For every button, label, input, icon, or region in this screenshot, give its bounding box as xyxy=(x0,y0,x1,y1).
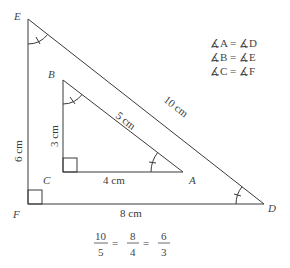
angle-equalities: ∡A = ∡D ∡B = ∡E ∡C = ∡F xyxy=(210,37,257,77)
equals-sign-1: = xyxy=(112,237,118,249)
angle-arc-e xyxy=(28,34,48,44)
vertex-label-f: F xyxy=(12,208,20,220)
angle-arc-b xyxy=(63,95,82,104)
fraction-2-numerator: 8 xyxy=(130,230,136,242)
vertex-label-b: B xyxy=(48,68,55,80)
side-label-bc: 3 cm xyxy=(48,125,60,147)
right-angle-marker-c xyxy=(63,158,77,172)
equality-b-e: ∡B = ∡E xyxy=(210,51,256,63)
fraction-2-denominator: 4 xyxy=(130,246,136,258)
fraction-1-denominator: 5 xyxy=(98,246,104,258)
angle-tick-a xyxy=(149,162,156,163)
fraction-3-numerator: 6 xyxy=(161,230,167,242)
side-label-ef: 6 cm xyxy=(12,140,24,162)
vertex-label-d: D xyxy=(267,202,276,214)
side-label-fd: 8 cm xyxy=(120,207,142,219)
side-label-ed: 10 cm xyxy=(162,93,191,119)
ratio-equation: 10 5 = 8 4 = 6 3 xyxy=(94,230,170,258)
equality-a-d: ∡A = ∡D xyxy=(210,37,257,49)
vertex-label-c: C xyxy=(43,174,51,186)
equals-sign-2: = xyxy=(143,237,149,249)
vertex-label-a: A xyxy=(188,174,196,186)
vertex-label-e: E xyxy=(13,10,21,22)
side-label-ca: 4 cm xyxy=(103,174,125,186)
right-angle-marker-f xyxy=(28,190,42,204)
similar-triangles-diagram: E F D B C A 6 cm 3 cm 5 cm 10 cm 4 cm 8 … xyxy=(0,0,290,268)
fraction-3-denominator: 3 xyxy=(161,246,167,258)
fraction-1-numerator: 10 xyxy=(95,230,107,242)
equality-c-f: ∡C = ∡F xyxy=(210,65,255,77)
